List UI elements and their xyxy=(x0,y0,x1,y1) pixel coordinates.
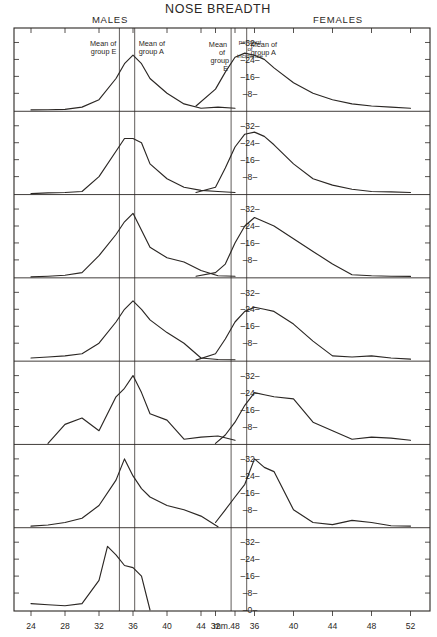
y-tick-label-8: –8– xyxy=(243,588,258,598)
y-tick-label-8: –8– xyxy=(243,172,258,182)
x-axis-label-male-24: 24 xyxy=(26,621,36,631)
y-tick-label-32: –32– xyxy=(240,288,259,298)
y-tick-label-24: –24– xyxy=(240,388,259,398)
males-header: MALES xyxy=(92,14,128,25)
nose-breadth-chart-svg: NOSE BREADTHMALESFEMALES –32––24––16––8–… xyxy=(0,0,437,637)
y-tick-label-16: –16– xyxy=(240,571,259,581)
y-tick-label-16: –16– xyxy=(240,72,259,82)
chart-figure: NOSE BREADTHMALESFEMALES –32––24––16––8–… xyxy=(0,0,437,637)
x-axis-label-male-48: 48 xyxy=(230,621,240,631)
x-axis-label-female-40: 40 xyxy=(289,621,299,631)
x-axis-unit-label: mm. xyxy=(214,621,231,631)
y-tick-label-24: –24– xyxy=(240,554,259,564)
y-tick-label-24: –24– xyxy=(240,304,259,314)
y-tick-label-8: –8– xyxy=(243,255,258,265)
y-tick-label-32: –32– xyxy=(240,121,259,131)
y-axis-caption-line3: incidence xyxy=(237,52,264,59)
annotation-female-mean-e-line4: E xyxy=(223,64,228,73)
y-tick-label-16: –16– xyxy=(240,405,259,415)
page-title: NOSE BREADTH xyxy=(165,2,271,16)
y-tick-label-8: –8– xyxy=(243,89,258,99)
y-tick-label-24: –24– xyxy=(240,138,259,148)
y-tick-label-16: –16– xyxy=(240,321,259,331)
y-tick-label-32: –32– xyxy=(240,371,259,381)
y-axis-caption-line2: of xyxy=(247,45,252,52)
x-axis-label-male-36: 36 xyxy=(128,621,138,631)
chart-background xyxy=(0,0,437,637)
x-axis-label-male-40: 40 xyxy=(162,621,172,631)
annotation-male-mean-a-line2: group A xyxy=(139,47,164,56)
y-axis-caption-line1: per cent xyxy=(239,38,262,45)
annotation-male-mean-e-line2: group E xyxy=(91,47,117,56)
y-tick-label-8: –8– xyxy=(243,505,258,515)
females-header: FEMALES xyxy=(313,14,363,25)
x-axis-label-female-52: 52 xyxy=(406,621,416,631)
y-tick-label-32: –32– xyxy=(240,537,259,547)
y-tick-label-8: –8– xyxy=(243,422,258,432)
y-tick-label-24: –24– xyxy=(240,221,259,231)
y-tick-label-32: –32– xyxy=(240,204,259,214)
x-axis-label-male-32: 32 xyxy=(94,621,104,631)
x-axis-label-female-44: 44 xyxy=(328,621,338,631)
y-tick-label-0: –0– xyxy=(243,605,258,615)
y-tick-label-16: –16– xyxy=(240,238,259,248)
x-axis-label-female-36: 36 xyxy=(250,621,260,631)
y-tick-label-32: –32– xyxy=(240,454,259,464)
x-axis-label-male-28: 28 xyxy=(60,621,70,631)
y-tick-label-16: –16– xyxy=(240,155,259,165)
y-tick-label-24: –24– xyxy=(240,471,259,481)
y-tick-label-8: –8– xyxy=(243,338,258,348)
x-axis-label-male-44: 44 xyxy=(196,621,206,631)
y-tick-label-16: –16– xyxy=(240,488,259,498)
x-axis-label-female-48: 48 xyxy=(367,621,377,631)
